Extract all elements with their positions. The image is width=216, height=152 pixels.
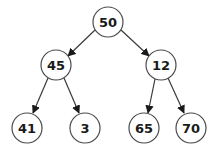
- tree-node-left-right: 3: [70, 113, 100, 143]
- tree-node-right-right: 70: [176, 113, 206, 143]
- node-label: 45: [47, 58, 65, 73]
- node-label: 70: [182, 121, 200, 136]
- node-label: 12: [152, 58, 170, 73]
- edge-12-65: [148, 79, 155, 113]
- edge-12-70: [168, 78, 184, 113]
- edge-50-45: [68, 30, 95, 56]
- tree-node-right: 12: [146, 50, 176, 80]
- tree-node-left: 45: [41, 50, 71, 80]
- edge-45-41: [33, 78, 48, 113]
- edge-50-12: [121, 30, 149, 56]
- tree-diagram: 50 45 12 41 3 65 70: [0, 0, 216, 152]
- edge-45-3: [64, 78, 79, 113]
- tree-node-right-left: 65: [129, 113, 159, 143]
- node-label: 41: [18, 121, 36, 136]
- node-label: 50: [99, 15, 117, 30]
- node-label: 65: [135, 121, 153, 136]
- tree-node-left-left: 41: [12, 113, 42, 143]
- node-label: 3: [80, 121, 89, 136]
- tree-node-root: 50: [93, 7, 123, 37]
